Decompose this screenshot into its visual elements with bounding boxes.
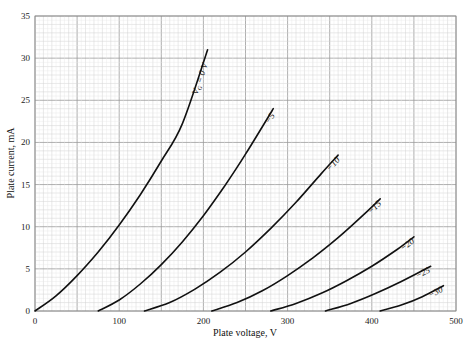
y-tick-label: 25 <box>21 95 31 105</box>
x-tick-label: 300 <box>281 316 295 326</box>
y-tick-label: 35 <box>21 11 31 21</box>
curve-label: −10 <box>324 154 342 172</box>
y-tick-label: 20 <box>21 137 31 147</box>
x-tick-label: 200 <box>197 316 211 326</box>
y-tick-label: 0 <box>26 306 31 316</box>
y-tick-label: 15 <box>21 180 31 190</box>
x-tick-label: 100 <box>112 316 126 326</box>
x-tick-label: 400 <box>365 316 379 326</box>
plate-characteristics-chart: 010020030040050005101520253035 VG = 0 V−… <box>0 0 476 356</box>
x-tick-label: 0 <box>33 316 38 326</box>
x-tick-label: 500 <box>449 316 463 326</box>
y-tick-label: 10 <box>21 222 31 232</box>
curve-label: −15 <box>365 198 383 216</box>
graph-paper-grid <box>35 16 456 311</box>
x-axis-label: Plate voltage, V <box>213 327 278 338</box>
y-tick-label: 5 <box>26 264 31 274</box>
y-axis-label: Plate current, mA <box>5 127 16 199</box>
curve-label: VG = 0 V <box>190 60 211 96</box>
y-tick-label: 30 <box>21 53 31 63</box>
